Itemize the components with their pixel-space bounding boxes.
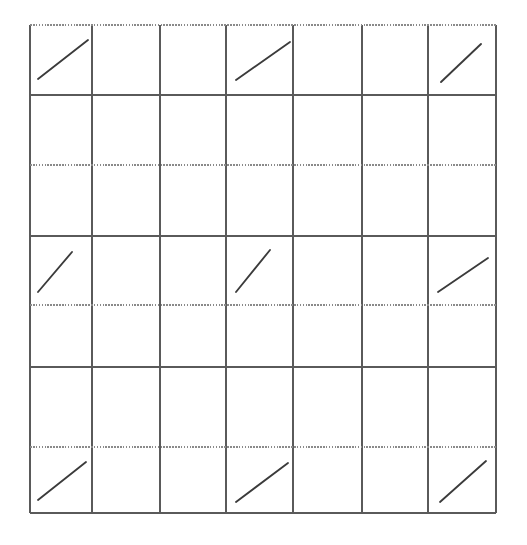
grid-cell-r7c2 [92,447,160,513]
grid-cell-r6c7 [428,367,496,447]
grid-cell-r2c7 [428,95,496,165]
grid-cell-r4c3 [160,236,226,305]
grid-cell-r1c7 [428,25,496,95]
grid-cell-r5c7 [428,305,496,367]
grid-cell-r3c4 [226,165,293,236]
grid-cell-r5c1 [30,305,92,367]
grid-cell-r3c7 [428,165,496,236]
grid-cell-r2c4 [226,95,293,165]
grid-cell-r4c6 [362,236,428,305]
grid-cell-r6c3 [160,367,226,447]
grid-cell-r5c4 [226,305,293,367]
grid-cell-r6c4 [226,367,293,447]
grid-cell-r4c5 [293,236,362,305]
grid-cell-r1c6 [362,25,428,95]
grid-cell-r7c6 [362,447,428,513]
grid-cell-r2c5 [293,95,362,165]
grid-cell-r1c3 [160,25,226,95]
grid-cell-r4c4 [226,236,293,305]
grid-cell-r1c2 [92,25,160,95]
grid-cell-r2c3 [160,95,226,165]
grid-cell-r3c5 [293,165,362,236]
grid-cell-r6c5 [293,367,362,447]
grid-diagram-canvas [0,0,527,545]
grid-cell-r7c5 [293,447,362,513]
grid-cell-r4c1 [30,236,92,305]
grid-cell-r5c5 [293,305,362,367]
grid-cell-r3c1 [30,165,92,236]
grid-cell-r6c2 [92,367,160,447]
grid-cell-r2c6 [362,95,428,165]
grid-cell-r2c2 [92,95,160,165]
figure-root [0,0,527,545]
grid-cell-r3c3 [160,165,226,236]
grid-cell-r3c6 [362,165,428,236]
grid-cell-r5c3 [160,305,226,367]
grid-cell-r7c7 [428,447,496,513]
grid-cell-r7c3 [160,447,226,513]
grid-cell-r3c2 [92,165,160,236]
grid-cell-r1c4 [226,25,293,95]
grid-cell-r1c5 [293,25,362,95]
grid-cells [30,25,496,513]
grid-cell-r5c2 [92,305,160,367]
grid-cell-r2c1 [30,95,92,165]
grid-cell-r6c6 [362,367,428,447]
grid-cell-r4c2 [92,236,160,305]
grid-cell-r7c1 [30,447,92,513]
grid-cell-r5c6 [362,305,428,367]
grid-cell-r4c7 [428,236,496,305]
grid-cell-r7c4 [226,447,293,513]
grid-cell-r6c1 [30,367,92,447]
